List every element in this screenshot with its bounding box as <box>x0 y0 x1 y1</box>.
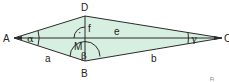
angle-label-alpha: α <box>27 33 34 44</box>
vertex-label-D: D <box>81 2 88 13</box>
arrow-tip-C <box>214 36 222 40</box>
vertex-label-A: A <box>3 33 10 44</box>
kite-diagram: · A B C D M e f a b α β γ Fi <box>0 0 229 82</box>
side-label-a: a <box>45 53 51 64</box>
diagonal-label-e: e <box>114 26 120 37</box>
vertex-label-C: C <box>224 33 229 44</box>
side-label-b: b <box>151 53 157 64</box>
angle-label-gamma: γ <box>191 33 197 44</box>
angle-label-beta: β <box>81 50 87 61</box>
vertex-label-B: B <box>81 68 88 79</box>
diagonal-label-f: f <box>88 23 91 34</box>
right-angle-dot: · <box>78 27 81 38</box>
footer-mark: Fi <box>210 76 214 82</box>
